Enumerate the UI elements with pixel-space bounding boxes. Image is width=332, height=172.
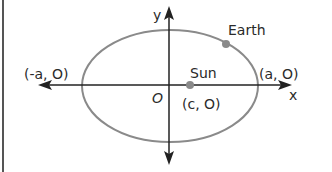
sun-label: Sun: [190, 65, 217, 81]
orbit-diagram: y x O (-a, O) (a, O) Sun (c, O) Earth: [0, 0, 332, 172]
sun-coords-label: (c, O): [182, 96, 221, 112]
x-axis-label: x: [289, 87, 297, 103]
earth-point: [222, 40, 230, 48]
right-vertex-label: (a, O): [259, 66, 298, 82]
origin-label: O: [152, 90, 163, 106]
orbit-ellipse: [82, 30, 258, 142]
y-axis-label: y: [153, 7, 161, 23]
left-vertex-label: (-a, O): [24, 66, 68, 82]
earth-label: Earth: [228, 22, 266, 38]
sun-point: [186, 81, 194, 89]
